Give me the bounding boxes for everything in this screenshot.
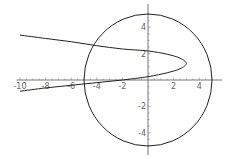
axes <box>17 4 222 155</box>
x-tick-label: -6 <box>67 82 75 91</box>
plot-canvas: -10-8-6-4-22442-2-4 <box>0 0 226 159</box>
x-tick-label: -2 <box>118 82 126 91</box>
x-tick-label: 4 <box>197 82 202 91</box>
x-tick-label: -8 <box>42 82 50 91</box>
y-tick-label: 4 <box>141 23 146 32</box>
x-tick-label: 2 <box>171 82 176 91</box>
y-tick-label: -4 <box>138 129 146 138</box>
tick-labels: -10-8-6-4-22442-2-4 <box>13 23 201 138</box>
x-tick-label: -10 <box>13 82 26 91</box>
y-tick-label: -2 <box>138 102 146 111</box>
